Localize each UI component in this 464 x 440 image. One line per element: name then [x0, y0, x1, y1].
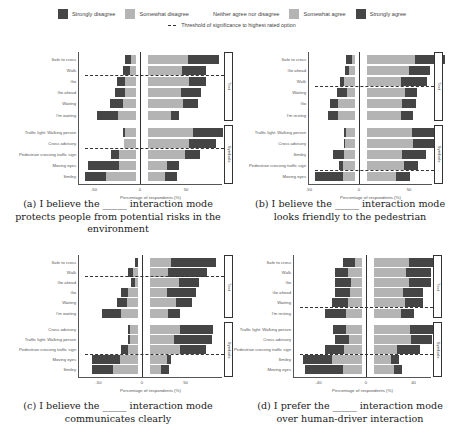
strongly-agree-bar [179, 278, 199, 287]
x-tick-label: 50 [407, 187, 412, 192]
somewhat-agree-bar [367, 150, 402, 159]
likert-row: Traffic light: Walking person [79, 128, 222, 137]
somewhat-agree-bar [374, 268, 406, 277]
somewhat-disagree-bar [127, 298, 138, 307]
likert-row: Waiting [79, 298, 222, 307]
plot-area-c: Safe to crossWalkGo aheadGoWaitingI'm wa… [78, 255, 222, 378]
somewhat-agree-bar [374, 278, 409, 287]
somewhat-agree-bar [150, 335, 174, 344]
strongly-disagree-bar [303, 355, 332, 364]
strongly-disagree-bar [88, 161, 118, 170]
strongly-agree-bar [183, 99, 198, 108]
strongly-agree-bar [167, 288, 197, 297]
legend-item: Strongly disagree [58, 9, 116, 19]
somewhat-agree-bar [367, 99, 402, 108]
strongly-agree-bar [402, 150, 426, 159]
category-label: Walk [297, 77, 306, 86]
threshold-label: Threshold of significance to highest rat… [181, 22, 295, 28]
likert-row: Waiting [79, 99, 222, 108]
likert-row: Cross advisory [79, 325, 222, 334]
category-label: Cross advisory [278, 139, 306, 148]
threshold-line [315, 86, 434, 87]
likert-row: Traffic light: Walking person [309, 128, 432, 137]
somewhat-disagree-bar [349, 335, 362, 344]
legend: Strongly disagreeSomewhat disagreeNeithe… [0, 8, 464, 20]
strongly-disagree-bar [335, 288, 349, 297]
somewhat-disagree-bar [123, 99, 136, 108]
threshold-legend: Threshold of significance to highest rat… [0, 22, 464, 28]
category-label: Moving eyes [282, 172, 306, 181]
category-label: Traffic light: Walking person [255, 128, 306, 137]
facet-strip-label: Text [436, 82, 441, 90]
somewhat-disagree-bar [344, 77, 355, 86]
likert-row: Go [79, 77, 222, 86]
strongly-agree-bar [391, 355, 399, 364]
category-label: Traffic light: Walking person [25, 128, 76, 137]
somewhat-agree-bar [150, 365, 161, 374]
strongly-agree-bar [409, 66, 430, 75]
likert-row: Go ahead [79, 88, 222, 97]
somewhat-disagree-bar [128, 288, 138, 297]
likert-row: Walk [294, 268, 431, 277]
strongly-disagree-bar [335, 335, 348, 344]
strongly-agree-bar [189, 77, 206, 86]
strongly-agree-bar [189, 139, 216, 148]
likert-row: Pedestrian crossing traffic sign [309, 161, 432, 170]
strongly-agree-bar [413, 139, 435, 148]
category-label: Walk [67, 268, 76, 277]
facet-strip-label: Symbols [226, 341, 231, 358]
subfigure-caption: (d) I prefer the _____ interaction mode … [246, 400, 454, 425]
x-tick-label: 0 [358, 187, 360, 192]
likert-row: Safe to cross [79, 55, 222, 64]
strongly-disagree-bar [315, 172, 343, 181]
category-label: I'm resting [272, 309, 291, 318]
category-label: Pedestrian crossing traffic sign [19, 150, 76, 159]
x-tick-label: 0 [365, 380, 367, 385]
likert-row: Walk [79, 66, 222, 75]
strongly-agree-bar [394, 365, 402, 374]
somewhat-disagree-bar [348, 268, 362, 277]
somewhat-agree-bar [148, 77, 189, 86]
threshold-line [300, 354, 433, 355]
somewhat-agree-bar [374, 355, 391, 364]
category-label: Waiting [277, 298, 291, 307]
category-label: Smiley [293, 150, 306, 159]
somewhat-disagree-bar [125, 88, 136, 97]
threshold-line [85, 354, 224, 355]
somewhat-disagree-bar [338, 111, 355, 120]
somewhat-disagree-bar [135, 278, 138, 287]
legend-label: Neither agree nor disagree [213, 11, 280, 17]
somewhat-agree-bar [148, 66, 182, 75]
likert-row: Traffic light: Walking person [294, 325, 431, 334]
likert-row: Cross advisory [309, 139, 432, 148]
likert-row: Walk [309, 77, 432, 86]
somewhat-disagree-bar [119, 161, 136, 170]
plot-area-d: Safe to crossWalkGoGo aheadWaitingI'm re… [293, 255, 431, 378]
threshold-line [315, 170, 434, 171]
somewhat-disagree-bar [343, 365, 362, 374]
somewhat-agree-bar [148, 55, 188, 64]
strongly-agree-bar [409, 278, 431, 287]
strongly-agree-bar [167, 355, 171, 364]
strongly-agree-bar [167, 161, 179, 170]
x-tick-label: -40 [315, 380, 321, 385]
category-label: I'm waiting [56, 111, 76, 120]
category-label: Moving eyes [52, 161, 76, 170]
strongly-agree-bar [406, 268, 431, 277]
legend-item: Strongly agree [356, 9, 406, 19]
somewhat-agree-bar [374, 325, 410, 334]
likert-row: Traffic light: Walking person [79, 335, 222, 344]
strongly-disagree-bar [123, 66, 130, 75]
somewhat-disagree-bar [345, 139, 355, 148]
likert-row: Cross advisory [294, 335, 431, 344]
strongly-agree-bar [174, 335, 211, 344]
likert-row: Go ahead [294, 288, 431, 297]
somewhat-disagree-bar [343, 161, 355, 170]
facet-strip-symbols: Symbols [433, 322, 442, 377]
likert-row: Go [294, 278, 431, 287]
strongly-disagree-bar [92, 355, 120, 364]
threshold-line [85, 75, 224, 76]
category-label: Walk [282, 268, 291, 277]
category-label: Waiting [62, 298, 76, 307]
legend-item: Somewhat agree [289, 9, 345, 19]
